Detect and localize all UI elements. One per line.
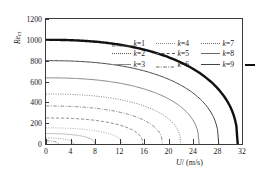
legend-line-swatch (156, 50, 175, 57)
y-axis-tick-mark (45, 123, 49, 124)
y-axis-tick-label: 200 (30, 119, 42, 128)
x-axis-tick-label: 8 (93, 147, 97, 156)
y-axis-title: Recr (13, 4, 22, 44)
y-axis-tick-label: 400 (30, 98, 42, 107)
curve-k-4 (46, 128, 122, 144)
legend-line-swatch (156, 61, 175, 68)
x-axis-tick-label: 16 (140, 147, 148, 156)
x-axis-tick-mark (71, 139, 72, 145)
legend-line-swatch (156, 40, 175, 47)
y-axis-tick-label: 800 (30, 56, 42, 65)
x-axis-tick-mark (169, 139, 170, 145)
x-axis-tick-mark (218, 139, 219, 145)
legend-column: k=10 (245, 38, 255, 70)
x-axis-tick-mark (95, 139, 96, 145)
x-axis-tick-label: 28 (214, 147, 222, 156)
legend-line-swatch (201, 40, 220, 47)
x-axis-tick-label: 12 (116, 147, 124, 156)
y-axis-tick-label: 1000 (26, 35, 42, 44)
y-axis-tick-label: 600 (30, 77, 42, 86)
x-axis-tick-label: 32 (238, 147, 246, 156)
curve-k-2 (46, 138, 74, 144)
legend-column: k=4k=5k=6 (156, 38, 189, 70)
plot-area: k=1k=2k=3k=4k=5k=6k=7k=8k=9k=10 (45, 18, 243, 145)
legend-line-swatch (112, 61, 131, 68)
legend-item-k-10: k=10 (245, 59, 255, 70)
y-axis-tick-mark (45, 82, 49, 83)
curve-k-7 (46, 94, 181, 144)
legend-item-k-4: k=4 (156, 38, 189, 49)
legend-item-k-9: k=9 (201, 59, 234, 70)
legend-label: k=6 (178, 60, 189, 69)
legend-label: k=2 (134, 49, 145, 58)
legend: k=1k=2k=3k=4k=5k=6k=7k=8k=9k=10 (112, 38, 255, 84)
legend-label: k=9 (223, 60, 234, 69)
x-axis-tick-label: 0 (44, 147, 48, 156)
legend-column: k=1k=2k=3 (112, 38, 145, 70)
x-axis-tick-mark (144, 139, 145, 145)
legend-label: k=3 (134, 60, 145, 69)
x-axis-tick-label: 20 (165, 147, 173, 156)
legend-line-swatch (201, 61, 220, 68)
legend-line-swatch (245, 61, 255, 68)
legend-line-swatch (201, 50, 220, 57)
y-axis-tick-mark (45, 102, 49, 103)
x-axis-tick-label: 4 (69, 147, 73, 156)
legend-item-k-6: k=6 (156, 59, 189, 70)
y-axis-tick-mark (45, 40, 49, 41)
legend-label: k=8 (223, 49, 234, 58)
x-axis-tick-mark (193, 139, 194, 145)
legend-item-k-2: k=2 (112, 49, 145, 60)
x-axis-tick-mark (120, 139, 121, 145)
legend-label: k=4 (178, 39, 189, 48)
x-axis-tick-mark (46, 139, 47, 145)
legend-label: k=1 (134, 39, 145, 48)
legend-item-k-5: k=5 (156, 49, 189, 60)
y-axis-tick-mark (45, 61, 49, 62)
x-axis-tick-labels: 048121620242832 (0, 147, 255, 159)
legend-line-swatch (112, 40, 131, 47)
legend-item-k-3: k=3 (112, 59, 145, 70)
legend-item-k-1: k=1 (112, 38, 145, 49)
x-axis-tick-label: 24 (189, 147, 197, 156)
legend-item-k-8: k=8 (201, 49, 234, 60)
y-axis-tick-mark (45, 19, 49, 20)
y-axis-tick-label: 1200 (26, 15, 42, 24)
legend-label: k=7 (223, 39, 234, 48)
legend-label: k=5 (178, 49, 189, 58)
y-axis-tick-label: 0 (38, 140, 42, 149)
x-axis-tick-mark (242, 139, 243, 145)
legend-line-swatch (112, 50, 131, 57)
legend-column: k=7k=8k=9 (201, 38, 234, 70)
legend-item-k-7: k=7 (201, 38, 234, 49)
x-axis-title: U/ (m/s) (176, 158, 203, 167)
figure: Recr k=1k=2k=3k=4k=5k=6k=7k=8k=9k=10 048… (0, 0, 255, 174)
